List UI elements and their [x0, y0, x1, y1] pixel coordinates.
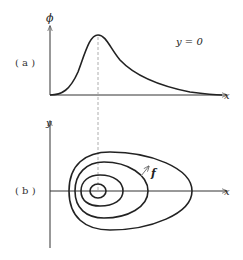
figure: ϕ x y = 0 ( a ) f y x ( b ) — [0, 0, 243, 260]
gradient-vector-arrow — [141, 166, 149, 176]
panel-a-label: ( a ) — [15, 57, 35, 68]
x-axis-label-b: x — [224, 186, 230, 197]
contour-third — [75, 162, 148, 218]
panel-b-label: ( b ) — [15, 185, 36, 196]
panel-b: f y x ( b ) — [15, 117, 230, 248]
phi-axis-label: ϕ — [46, 12, 54, 25]
y-equals-zero-annotation: y = 0 — [175, 36, 203, 47]
vector-f-label: f — [150, 167, 158, 180]
x-axis-label-a: x — [224, 90, 230, 101]
panel-a: ϕ x y = 0 ( a ) — [15, 12, 230, 190]
y-axis-label-b: y — [45, 117, 52, 128]
